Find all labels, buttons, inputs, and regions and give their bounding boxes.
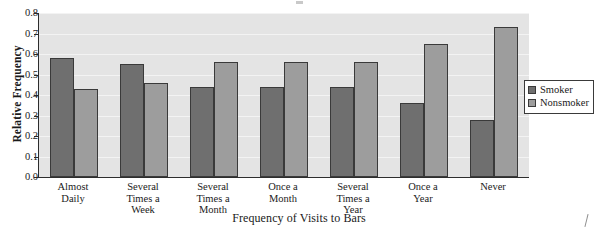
bar-smoker <box>190 87 214 177</box>
bar-series-container <box>39 13 529 177</box>
legend-swatch-icon <box>528 99 536 107</box>
legend-item-smoker: Smoker <box>528 84 589 96</box>
bar-chart-figure: Relative Frequency 0.00.10.20.30.40.50.6… <box>0 0 598 232</box>
bar-nonsmoker <box>74 89 98 177</box>
bar-smoker <box>260 87 284 177</box>
bar-nonsmoker <box>284 62 308 177</box>
x-tick-label: Once a Year <box>388 181 458 204</box>
legend-label: Nonsmoker <box>540 98 589 108</box>
bar-smoker <box>120 64 144 177</box>
plot-area <box>38 13 529 178</box>
bar-smoker <box>50 58 74 177</box>
legend-item-nonsmoker: Nonsmoker <box>528 97 589 109</box>
x-tick-label: Never <box>458 181 528 193</box>
bar-nonsmoker <box>144 83 168 177</box>
scan-artifact-top <box>296 1 303 4</box>
x-tick-label: Once a Month <box>248 181 318 204</box>
bar-smoker <box>470 120 494 177</box>
bar-nonsmoker <box>424 44 448 177</box>
bar-smoker <box>330 87 354 177</box>
x-tick-label: Almost Daily <box>38 181 108 204</box>
legend-swatch-icon <box>528 86 536 94</box>
bar-smoker <box>400 103 424 177</box>
legend: SmokerNonsmoker <box>524 80 594 114</box>
bar-nonsmoker <box>214 62 238 177</box>
legend-label: Smoker <box>540 85 573 95</box>
bar-nonsmoker <box>354 62 378 177</box>
bar-nonsmoker <box>494 27 518 177</box>
x-axis-title: Frequency of Visits to Bars <box>0 211 598 226</box>
